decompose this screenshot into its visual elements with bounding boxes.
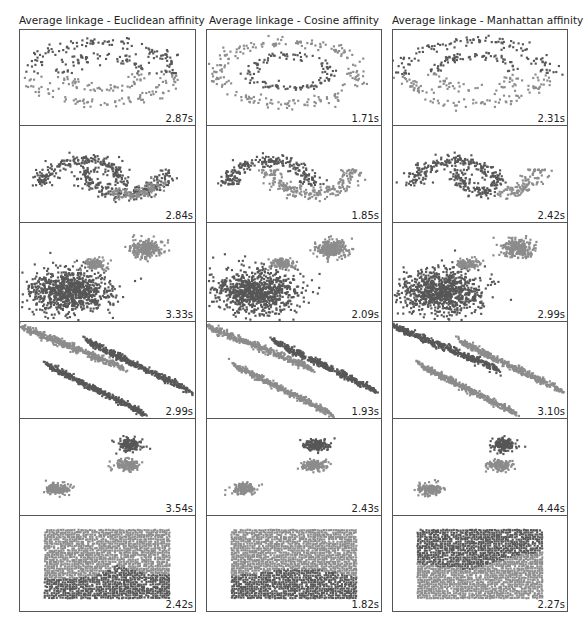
- subplot-noisy_circles-euclidean: 2.87s: [19, 29, 196, 126]
- subplot-varied-euclidean: 3.33s: [19, 222, 196, 322]
- scatter-plot: [393, 30, 567, 125]
- scatter-plot: [393, 126, 567, 222]
- scatter-plot: [20, 126, 195, 222]
- runtime-label: 2.42s: [538, 210, 565, 221]
- runtime-label: 2.99s: [538, 309, 565, 320]
- subplot-noisy_moons-cosine: 1.85s: [206, 125, 382, 223]
- scatter-plot: [20, 223, 195, 321]
- subplot-aniso-euclidean: 2.99s: [19, 321, 196, 419]
- runtime-label: 2.43s: [352, 503, 379, 514]
- subplot-varied-manhattan: 2.99s: [392, 222, 568, 322]
- scatter-plot: [207, 126, 381, 222]
- scatter-plot: [393, 223, 567, 321]
- scatter-plot: [207, 419, 381, 515]
- runtime-label: 2.31s: [538, 113, 565, 124]
- scatter-plot: [20, 516, 195, 611]
- scatter-plot: [207, 30, 381, 125]
- runtime-label: 1.93s: [352, 406, 379, 417]
- scatter-plot: [207, 322, 381, 418]
- subplot-aniso-cosine: 1.93s: [206, 321, 382, 419]
- runtime-label: 2.99s: [166, 406, 193, 417]
- runtime-label: 2.87s: [166, 113, 193, 124]
- scatter-plot: [393, 419, 567, 515]
- scatter-plot: [207, 223, 381, 321]
- subplot-no_structure-cosine: 1.82s: [206, 515, 382, 612]
- runtime-label: 2.09s: [352, 309, 379, 320]
- runtime-label: 2.42s: [166, 599, 193, 610]
- scatter-plot: [20, 419, 195, 515]
- subplot-varied-cosine: 2.09s: [206, 222, 382, 322]
- subplot-noisy_moons-manhattan: 2.42s: [392, 125, 568, 223]
- runtime-label: 4.44s: [538, 503, 565, 514]
- subplot-blobs-euclidean: 3.54s: [19, 418, 196, 516]
- scatter-plot: [207, 516, 381, 611]
- subplot-noisy_moons-euclidean: 2.84s: [19, 125, 196, 223]
- runtime-label: 3.33s: [166, 309, 193, 320]
- runtime-label: 2.27s: [538, 599, 565, 610]
- column-title-manhattan: Average linkage - Manhattan affinity: [392, 14, 568, 28]
- subplot-no_structure-manhattan: 2.27s: [392, 515, 568, 612]
- column-title-euclidean: Average linkage - Euclidean affinity: [19, 14, 196, 28]
- subplot-no_structure-euclidean: 2.42s: [19, 515, 196, 612]
- runtime-label: 3.10s: [538, 406, 565, 417]
- subplot-aniso-manhattan: 3.10s: [392, 321, 568, 419]
- scatter-plot: [393, 516, 567, 611]
- scatter-plot: [20, 30, 195, 125]
- runtime-label: 1.82s: [352, 599, 379, 610]
- runtime-label: 3.54s: [166, 503, 193, 514]
- subplot-noisy_circles-cosine: 1.71s: [206, 29, 382, 126]
- scatter-plot: [20, 322, 195, 418]
- subplot-blobs-cosine: 2.43s: [206, 418, 382, 516]
- subplot-blobs-manhattan: 4.44s: [392, 418, 568, 516]
- runtime-label: 1.85s: [352, 210, 379, 221]
- runtime-label: 2.84s: [166, 210, 193, 221]
- runtime-label: 1.71s: [352, 113, 379, 124]
- subplot-noisy_circles-manhattan: 2.31s: [392, 29, 568, 126]
- scatter-plot: [393, 322, 567, 418]
- column-title-cosine: Average linkage - Cosine affinity: [206, 14, 382, 28]
